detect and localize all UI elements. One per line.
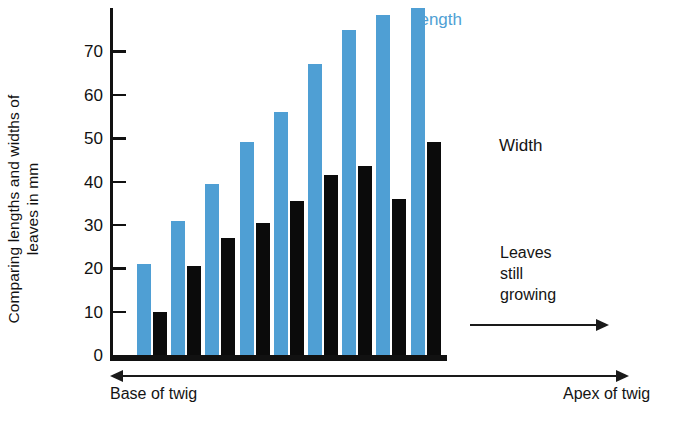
bar-width [221,238,235,355]
y-axis-title-text: Comparing lengths and widths of leaves i… [0,95,42,324]
legend-label-length: Length [410,10,462,30]
y-axis-tick [113,267,126,270]
bar-width [290,201,304,355]
y-axis-title: Comparing lengths and widths of leaves i… [0,0,56,426]
apex-arrow-head-icon [616,370,629,382]
growth-arrow-head-icon [596,319,609,331]
bar-length [308,64,322,355]
bar-width [392,199,406,355]
y-axis-tick-label: 0 [94,347,103,364]
y-axis-tick-label: 50 [84,130,103,147]
bar-length [205,184,219,355]
y-axis-tick-label: 30 [84,216,103,233]
y-axis-tick-label: 10 [84,303,103,320]
bar-length [274,112,288,355]
y-axis-tick [113,311,126,314]
bar-length [376,15,390,355]
growth-arrow-line [470,324,598,326]
bar-width [256,223,270,355]
bar-length [240,142,254,355]
bar-width [324,175,338,355]
bar-width [427,142,441,355]
twig-direction-arrow [110,369,630,383]
twig-arrow-line [122,375,618,377]
apex-of-twig-caption: Apex of twig [563,385,650,403]
y-axis-tick-label: 20 [84,260,103,277]
growth-arrow [470,318,610,332]
y-axis-tick-label: 40 [84,173,103,190]
bar-width [187,266,201,355]
bar-width [358,166,372,355]
legend-label-width: Width [499,136,542,156]
bar-width [153,312,167,355]
base-of-twig-caption: Base of twig [110,385,197,403]
y-axis-tick [113,94,126,97]
y-axis-tick [113,50,126,53]
y-axis-tick [113,137,126,140]
y-axis-tick-label: 70 [84,43,103,60]
bar-length [342,30,356,355]
y-axis-tick-label: 60 [84,86,103,103]
y-axis-tick [113,224,126,227]
x-axis-baseline [110,355,447,361]
leaf-length-width-bar-chart: Comparing lengths and widths of leaves i… [0,0,700,426]
y-axis-tick [113,181,126,184]
bar-length [137,264,151,355]
bar-length [171,221,185,355]
leaves-growing-note: Leaves still growing [500,242,556,305]
bar-length [411,8,425,355]
